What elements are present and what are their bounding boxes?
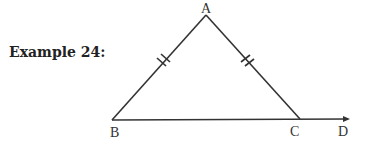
side-ab	[112, 15, 206, 120]
label-a: A	[201, 1, 212, 16]
triangle-diagram: A B C D	[0, 0, 378, 146]
label-c: C	[290, 124, 299, 139]
label-b: B	[110, 125, 119, 140]
arrowhead-icon	[343, 116, 350, 122]
side-ac	[206, 15, 300, 119]
label-d: D	[338, 124, 348, 139]
ray-bd	[112, 119, 348, 120]
